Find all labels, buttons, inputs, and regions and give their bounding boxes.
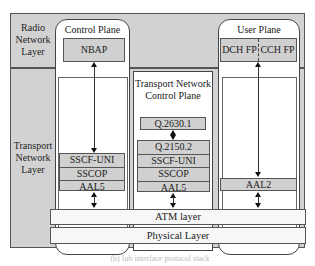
control-plane-stack: SSCF-UNI SSCOP AAL5 (59, 153, 125, 191)
atm-layer-bar: ATM layer (50, 209, 306, 225)
sscop-layer: SSCOP (138, 168, 209, 182)
q2630-box: Q.2630.1 (140, 117, 206, 130)
connector-line (258, 66, 259, 172)
tncp-title: Transport Network Control Plane (133, 78, 213, 102)
radio-network-layer-label: Radio Network Layer (10, 22, 56, 58)
arrow-down-icon (91, 203, 97, 208)
transport-network-layer-label: Transport Network Layer (10, 140, 56, 176)
label-line: Network (10, 34, 56, 46)
cch-fp: CCH FP (259, 39, 296, 61)
arrow-down-icon (170, 203, 176, 208)
q2150-layer: Q.2150.2 (138, 141, 209, 155)
nbap-box: NBAP (63, 38, 125, 62)
tncp-stack: Q.2150.2 SSCF-UNI SSCOP AAL5 (137, 140, 210, 192)
label-line: Layer (10, 46, 56, 58)
dch-fp: DCH FP (221, 39, 259, 61)
connector-line (94, 66, 95, 148)
title-line: Transport Network (133, 78, 213, 90)
label-line: Network (10, 152, 56, 164)
physical-layer-bar: Physical Layer (50, 227, 306, 244)
arrow-down-icon (255, 172, 261, 177)
label-line: Transport (10, 140, 56, 152)
user-plane-fp-box: DCH FP CCH FP (220, 38, 297, 62)
control-plane-title: Control Plane (55, 24, 130, 36)
title-line: Control Plane (133, 90, 213, 102)
sscf-uni-layer: SSCF-UNI (60, 154, 124, 168)
arrow-down-icon (255, 203, 261, 208)
label-line: Layer (10, 164, 56, 176)
user-plane-title: User Plane (218, 24, 300, 36)
arrow-down-icon (91, 148, 97, 153)
figure-caption: (b) Iub interface protocol stack (80, 254, 240, 263)
aal2-box: AAL2 (220, 178, 297, 191)
sscop-layer: SSCOP (60, 168, 124, 182)
label-line: Radio (10, 22, 56, 34)
sscf-uni-layer: SSCF-UNI (138, 155, 209, 169)
